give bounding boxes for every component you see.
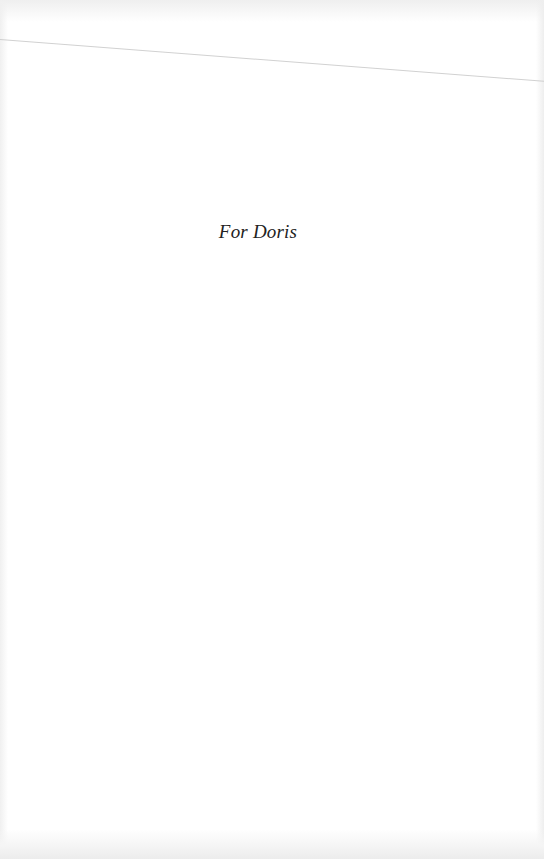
scan-shadow-top xyxy=(0,0,544,22)
scan-artifact-line xyxy=(0,39,544,82)
scan-shadow-bottom xyxy=(0,829,544,859)
scan-shadow-left xyxy=(0,0,8,859)
scan-shadow-right xyxy=(536,0,544,859)
book-page: For Doris xyxy=(0,0,544,859)
dedication-text: For Doris xyxy=(0,220,516,244)
